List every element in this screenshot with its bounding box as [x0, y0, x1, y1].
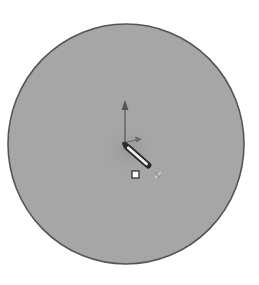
- square-point-icon[interactable]: [132, 171, 139, 178]
- sketch-canvas[interactable]: [0, 0, 259, 285]
